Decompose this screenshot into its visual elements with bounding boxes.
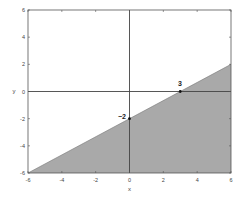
x-axis-label: x: [128, 186, 131, 192]
y-tick-label: -6: [20, 170, 25, 176]
y-tick-label: 0: [22, 89, 25, 95]
y-axis-label: y: [13, 88, 16, 94]
chart: -6-4-20246-6-4-20246 x y 3 −2: [0, 0, 240, 199]
x-tick-label: 2: [162, 177, 165, 183]
x-intercept-label: 3: [178, 80, 182, 87]
x-tick-label: 4: [196, 177, 199, 183]
x-tick-label: -4: [59, 177, 64, 183]
y-tick-label: 2: [22, 61, 25, 67]
y-intercept-label: −2: [118, 113, 126, 120]
plot-area: [28, 10, 231, 173]
intercept-point: [128, 117, 131, 120]
x-tick-label: -2: [93, 177, 98, 183]
intercept-point: [179, 90, 182, 93]
x-tick-label: 6: [229, 177, 232, 183]
x-tick-label: 0: [128, 177, 131, 183]
y-tick-label: -4: [20, 143, 25, 149]
y-tick-label: -2: [20, 116, 25, 122]
y-tick-label: 6: [22, 7, 25, 13]
y-tick-label: 4: [22, 34, 25, 40]
x-tick-label: -6: [26, 177, 31, 183]
